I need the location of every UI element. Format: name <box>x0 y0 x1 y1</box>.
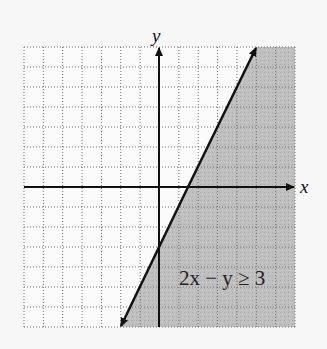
y-axis-label: y <box>150 25 161 46</box>
x-axis-label: x <box>299 176 309 197</box>
inequality-label: 2x − y ≥ 3 <box>179 266 265 290</box>
inequality-graph: y x 2x − y ≥ 3 <box>0 0 327 349</box>
